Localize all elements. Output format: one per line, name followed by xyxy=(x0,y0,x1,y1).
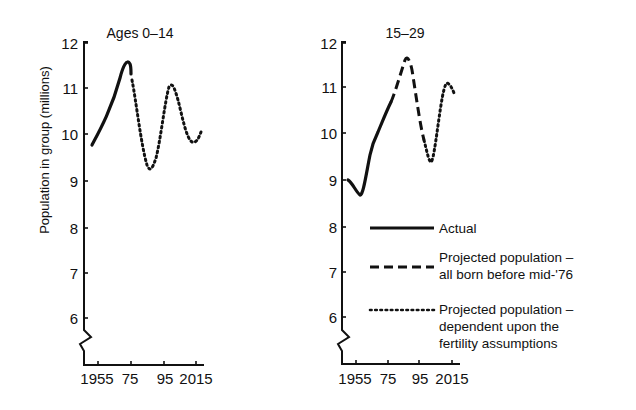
left-x-tick-labels: 1955 75 95 2015 xyxy=(80,370,212,387)
svg-text:11: 11 xyxy=(321,79,337,96)
svg-text:95: 95 xyxy=(157,370,174,387)
svg-text:1955: 1955 xyxy=(338,370,371,387)
left-chart: Ages 0–14 Population in group (millions)… xyxy=(37,25,213,387)
svg-text:dependent upon the: dependent upon the xyxy=(439,319,559,334)
svg-text:75: 75 xyxy=(122,370,139,387)
svg-text:95: 95 xyxy=(412,370,429,387)
legend-item-actual: Actual xyxy=(370,221,477,236)
svg-text:12: 12 xyxy=(61,35,78,52)
legend-item-projected-born: Projected population – all born before m… xyxy=(370,250,574,282)
y-axis-label: Population in group (millions) xyxy=(37,66,52,234)
chart-canvas: Ages 0–14 Population in group (millions)… xyxy=(0,0,636,410)
right-projected-fertility-line xyxy=(424,83,454,162)
svg-text:all born before mid-'76: all born before mid-'76 xyxy=(439,267,573,282)
right-x-tick-labels: 1955 75 95 2015 xyxy=(338,370,468,387)
left-actual-line xyxy=(92,62,131,145)
legend: Actual Projected population – all born b… xyxy=(370,221,574,351)
left-y-axis xyxy=(80,42,204,365)
svg-text:10: 10 xyxy=(320,125,337,142)
svg-text:7: 7 xyxy=(70,265,78,282)
svg-text:6: 6 xyxy=(329,309,337,326)
svg-text:11: 11 xyxy=(62,80,78,97)
legend-item-projected-fertility: Projected population – dependent upon th… xyxy=(370,302,574,351)
left-projected-fertility-line xyxy=(132,80,201,169)
svg-text:10: 10 xyxy=(61,126,78,143)
svg-text:9: 9 xyxy=(70,173,78,190)
svg-text:8: 8 xyxy=(70,220,78,237)
right-chart: 15–29 12 11 10 9 8 7 6 1955 xyxy=(320,25,574,387)
svg-text:12: 12 xyxy=(320,35,337,52)
svg-text:75: 75 xyxy=(380,370,397,387)
svg-text:9: 9 xyxy=(329,172,337,189)
svg-text:6: 6 xyxy=(70,310,78,327)
right-chart-title: 15–29 xyxy=(386,25,425,41)
right-projected-born-line xyxy=(391,58,424,140)
svg-text:Projected population –: Projected population – xyxy=(439,302,574,317)
svg-text:2015: 2015 xyxy=(179,370,212,387)
svg-text:2015: 2015 xyxy=(435,370,468,387)
svg-text:fertility assumptions: fertility assumptions xyxy=(439,336,558,351)
svg-text:Projected population –: Projected population – xyxy=(439,250,574,265)
left-chart-title: Ages 0–14 xyxy=(107,25,174,41)
svg-text:1955: 1955 xyxy=(80,370,113,387)
right-actual-line xyxy=(348,102,391,195)
right-y-tick-labels: 12 11 10 9 8 7 6 xyxy=(320,35,337,326)
svg-text:Actual: Actual xyxy=(439,221,477,236)
svg-text:8: 8 xyxy=(329,219,337,236)
svg-text:7: 7 xyxy=(329,264,337,281)
left-y-tick-labels: 12 11 10 9 8 7 6 xyxy=(61,35,78,327)
